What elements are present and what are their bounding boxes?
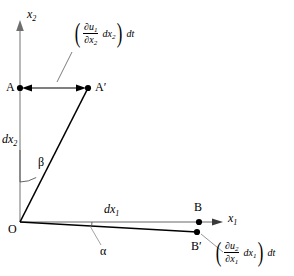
alpha-angle-arc [90, 222, 101, 245]
expression-u1-rate: ( ∂u1 ∂x2 dx2 ) dt [73, 22, 134, 45]
axis-label-x2: x2 [27, 8, 36, 20]
open-paren-bottom: ( [216, 241, 222, 263]
fraction-denominator-top: ∂x2 [83, 35, 98, 45]
vertical-axis [16, 20, 24, 222]
fraction-numerator-bottom: ∂u2 [224, 241, 239, 251]
partial-fraction-top: ∂u1 ∂x2 [83, 22, 98, 45]
angle-label-alpha: α [100, 245, 106, 257]
diagram-canvas [0, 0, 294, 276]
beta-angle-arc [20, 150, 36, 182]
point-label-a-prime: A′ [95, 81, 106, 93]
close-paren-bottom: ) [258, 241, 264, 263]
point-label-b-prime: B′ [191, 240, 202, 252]
top-expression-leader [57, 52, 72, 82]
expression-u2-rate: ( ∂u2 ∂x1 dx1 ) dt [214, 241, 275, 264]
u1-displacement-arrow [22, 85, 86, 92]
close-paren-top: ) [117, 22, 123, 44]
axis-label-x1: x1 [228, 212, 237, 224]
dimension-label-dx2: dx2 [2, 133, 17, 145]
deformation-diagram: x2 x1 A A′ O B B′ dx2 dx1 β α ( ∂u1 ∂x2 … [0, 0, 294, 276]
dx-term-top: dx2 [102, 29, 115, 39]
dt-term-bottom: dt [267, 248, 275, 258]
angle-label-beta: β [38, 156, 44, 168]
dt-term-top: dt [126, 29, 134, 39]
fraction-denominator-bottom: ∂x1 [224, 254, 239, 264]
fraction-numerator-top: ∂u1 [83, 22, 98, 32]
dx-term-bottom: dx1 [243, 248, 256, 258]
partial-fraction-bottom: ∂u2 ∂x1 [224, 241, 239, 264]
open-paren-top: ( [75, 22, 81, 44]
point-label-a: A [6, 81, 15, 93]
dimension-label-dx1: dx1 [104, 203, 119, 215]
point-label-origin: O [8, 223, 17, 235]
point-label-b: B [194, 201, 202, 213]
